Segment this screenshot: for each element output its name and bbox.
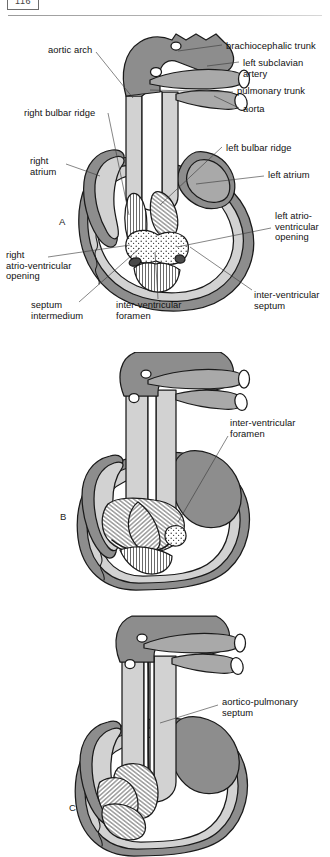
label-right-atrium: right atrium [30, 156, 56, 177]
label-left-subclavian-artery: left subclavian artery [243, 58, 303, 79]
label-inter-ventricular-foramen: inter-ventricular foramen [116, 300, 181, 321]
panel-b-illustration [0, 352, 330, 592]
label-right-atrio-ventricular-opening: right atrio-ventricular opening [6, 250, 71, 282]
label-aorta: aorta [243, 104, 265, 115]
label-left-bulbar-ridge: left bulbar ridge [226, 143, 291, 154]
label-inter-ventricular-septum: inter-ventricular septum [254, 290, 319, 311]
label-aortico-pulmonary-septum: aortico-pulmonary septum [222, 697, 298, 718]
panel-letter-a: A [59, 216, 66, 227]
figure-page: 116 [0, 0, 330, 857]
panel-c-illustration [0, 612, 330, 857]
label-aortic-arch: aortic arch [48, 45, 92, 56]
panel-letter-c: C [69, 802, 76, 813]
label-brachiocephalic-trunk: brachiocephalic trunk [226, 41, 316, 52]
label-right-bulbar-ridge: right bulbar ridge [24, 108, 95, 119]
label-left-atrio-ventricular-opening: left atrio- ventricular opening [275, 211, 319, 243]
label-left-atrium: left atrium [268, 170, 310, 181]
label-pulmonary-trunk: pulmonary trunk [237, 86, 305, 97]
label-septum-intermedium: septum intermedium [31, 300, 83, 321]
label-inter-ventricular-foramen-b: inter-ventricular foramen [230, 418, 295, 439]
panel-letter-b: B [60, 511, 67, 522]
